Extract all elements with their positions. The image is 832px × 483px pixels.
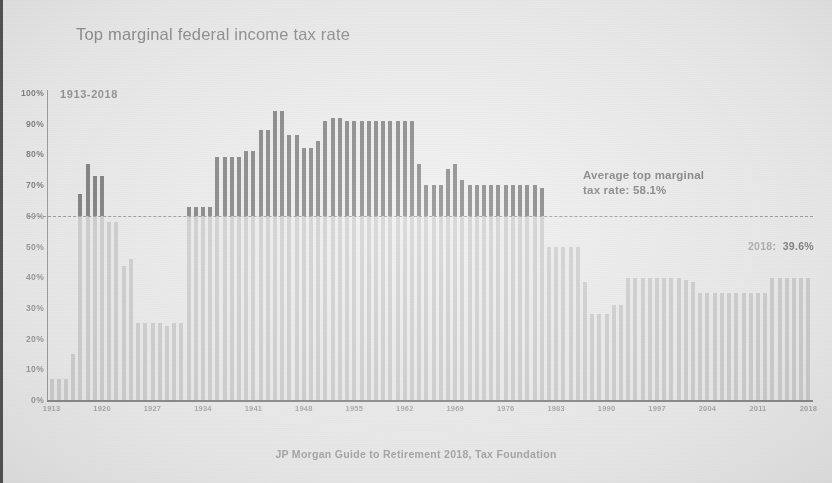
bar-1939: [237, 157, 241, 400]
average-threshold-line: [28, 216, 813, 217]
bar-1981: [540, 188, 544, 400]
bar-1957: [367, 121, 371, 400]
bar-segment-above-average: [273, 111, 277, 215]
bar-segment-above-average: [316, 141, 320, 216]
average-annotation: Average top marginal tax rate: 58.1%: [583, 168, 704, 198]
x-axis-tick-1983: 1983: [547, 404, 565, 413]
bar-1922: [114, 222, 118, 400]
x-axis-tick-1941: 1941: [245, 404, 263, 413]
bar-segment-above-average: [360, 121, 364, 216]
date-range-label: 1913-2018: [60, 88, 118, 100]
bar-1990: [605, 314, 609, 400]
x-axis-tick-1913: 1913: [43, 404, 61, 413]
bar-1916: [71, 354, 75, 400]
bar-segment-above-average: [244, 151, 248, 216]
bar-1944: [273, 111, 277, 400]
bar-segment-above-average: [432, 185, 436, 216]
bar-segment-above-average: [540, 188, 544, 216]
y-axis-tick-labels: 0%10%20%30%40%50%60%70%80%90%100%: [0, 0, 44, 483]
bar-segment-above-average: [460, 180, 464, 216]
bar-segment-above-average: [352, 121, 356, 216]
bar-2009: [742, 293, 746, 400]
bar-2005: [713, 293, 717, 400]
bar-segment-above-average: [338, 118, 342, 216]
bar-1971: [468, 185, 472, 400]
bar-segment-above-average: [208, 207, 212, 216]
bar-1982: [547, 247, 551, 401]
bar-segment-above-average: [424, 185, 428, 216]
x-axis-tick-1955: 1955: [346, 404, 364, 413]
bar-1953: [338, 118, 342, 400]
bar-segment-above-average: [439, 185, 443, 216]
bar-segment-above-average: [475, 185, 479, 216]
bar-1991: [612, 305, 616, 400]
bar-segment-above-average: [345, 121, 349, 216]
bar-segment-above-average: [410, 121, 414, 216]
bar-segment-above-average: [259, 130, 263, 216]
bar-2006: [720, 293, 724, 400]
bar-1926: [143, 323, 147, 400]
bar-1928: [158, 323, 162, 400]
bar-1919: [93, 176, 97, 400]
bar-1984: [561, 247, 565, 401]
bar-1973: [482, 185, 486, 400]
bar-segment-above-average: [266, 130, 270, 216]
bar-segment-above-average: [482, 185, 486, 216]
bar-1994: [633, 278, 637, 400]
bar-1956: [360, 121, 364, 400]
bar-1945: [280, 111, 284, 400]
bar-1942: [259, 130, 263, 400]
bar-1978: [518, 185, 522, 400]
bar-1929: [165, 326, 169, 400]
x-axis-tick-2004: 2004: [699, 404, 717, 413]
bar-2012: [763, 293, 767, 400]
last-value-year: 2018: [748, 240, 773, 252]
bar-1946: [287, 135, 291, 400]
bar-2004: [705, 293, 709, 400]
bar-1950: [316, 141, 320, 400]
y-axis-tick-50: 50%: [26, 242, 44, 252]
bar-1980: [533, 185, 537, 400]
bar-1983: [554, 247, 558, 401]
bar-1993: [626, 278, 630, 400]
y-axis-tick-30: 30%: [26, 303, 44, 313]
y-axis-tick-80: 80%: [26, 149, 44, 159]
bar-segment-above-average: [287, 135, 291, 216]
x-axis-tick-1934: 1934: [194, 404, 212, 413]
bar-1997: [655, 278, 659, 400]
bar-1920: [100, 176, 104, 400]
bar-1940: [244, 151, 248, 400]
bar-segment-above-average: [489, 185, 493, 216]
bar-segment-above-average: [367, 121, 371, 216]
bar-1927: [151, 323, 155, 400]
x-axis-tick-1990: 1990: [598, 404, 616, 413]
bar-1913: [50, 379, 54, 400]
y-axis-tick-40: 40%: [26, 272, 44, 282]
average-annotation-line2: tax rate: 58.1%: [583, 183, 704, 198]
bar-segment-above-average: [187, 207, 191, 216]
bar-1988: [590, 314, 594, 400]
bar-2001: [684, 280, 688, 400]
x-axis-tick-1920: 1920: [93, 404, 111, 413]
bar-segment-above-average: [396, 121, 400, 216]
bar-segment-above-average: [417, 164, 421, 216]
bar-segment-above-average: [533, 185, 537, 216]
bar-segment-above-average: [525, 185, 529, 216]
bar-1986: [576, 247, 580, 401]
source-note: JP Morgan Guide to Retirement 2018, Tax …: [0, 448, 832, 460]
bar-segment-above-average: [302, 148, 306, 216]
bar-2003: [698, 293, 702, 400]
bar-segment-above-average: [446, 169, 450, 216]
bar-2008: [734, 293, 738, 400]
bar-1959: [381, 121, 385, 400]
bar-segment-above-average: [86, 164, 90, 216]
bar-1935: [208, 207, 212, 400]
bar-segment-above-average: [518, 185, 522, 216]
bar-1965: [424, 185, 428, 400]
bar-segment-above-average: [381, 121, 385, 216]
bar-1951: [323, 121, 327, 400]
bar-1989: [597, 314, 601, 400]
x-axis-tick-1976: 1976: [497, 404, 515, 413]
bar-segment-above-average: [230, 157, 234, 215]
bar-1964: [417, 164, 421, 400]
